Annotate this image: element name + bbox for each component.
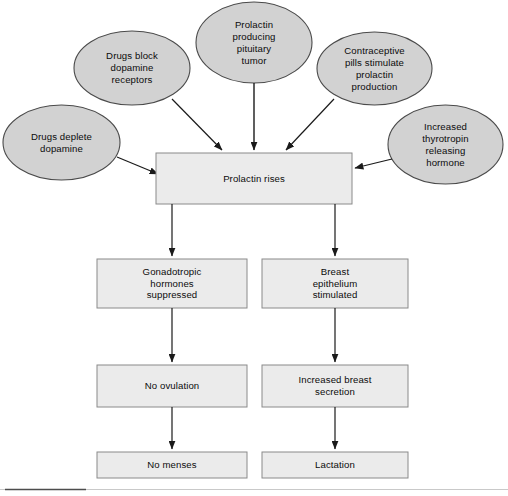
node-prolactin-producing-pituitary-tumor xyxy=(196,2,312,83)
node-no-ovulation xyxy=(97,365,247,407)
node-breast-epithelium-stimulated xyxy=(262,259,408,308)
node-contraceptive-pills xyxy=(317,32,432,105)
arrow-contraceptive-to-prolactin xyxy=(286,99,334,150)
node-gonadotropic-hormones-suppressed xyxy=(97,259,247,308)
node-drugs-deplete-dopamine xyxy=(3,105,120,180)
arrow-drugs-block-to-prolactin xyxy=(172,99,222,150)
node-prolactin-rises xyxy=(156,153,352,204)
node-drugs-block-dopamine-receptors xyxy=(74,31,190,105)
node-increased-thyrotropin-releasing-hormone xyxy=(388,105,503,184)
flowchart-canvas: Drugs deplete dopamine Drugs block dopam… xyxy=(0,0,508,496)
node-lactation xyxy=(262,452,408,478)
node-no-menses xyxy=(97,452,247,478)
arrow-drugs-deplete-to-prolactin xyxy=(117,157,158,174)
flowchart-graphics xyxy=(0,0,508,496)
node-increased-breast-secretion xyxy=(262,365,408,407)
arrow-thyrotropin-to-prolactin xyxy=(355,159,392,168)
